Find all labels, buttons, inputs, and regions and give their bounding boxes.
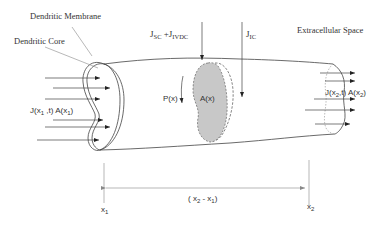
extracellular-label: Extracellular Space [297,25,364,35]
core-label: Dendritic Core [14,36,65,46]
span-label: ( x2 - x1) [188,194,218,204]
area-label: A(x) [200,94,215,103]
flux-sc-ivdc-label: JSC +JIVDC [150,29,188,40]
flux-ic-label: JIC [246,29,256,40]
outflow-arrows [305,73,355,124]
x2-label: x2 [307,202,315,212]
inflow-label: J(x1 ,t) A(x1) [30,106,73,116]
core-leader [45,47,98,68]
perimeter-arrow [181,76,183,103]
perimeter-label: P(x) [163,94,178,103]
outflow-label: J(x2,t) A(x2) [325,88,366,98]
membrane-label: Dendritic Membrane [30,11,101,21]
x1-label: x1 [101,205,109,215]
membrane-leader [72,27,92,56]
dendrite-flux-diagram: Dendritic Membrane Dendritic Core Extrac… [0,0,387,227]
